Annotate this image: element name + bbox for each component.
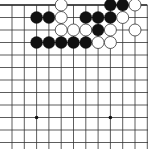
black-stone	[55, 37, 67, 49]
white-stone	[104, 37, 116, 49]
white-stone	[129, 0, 141, 11]
black-stone	[92, 24, 104, 36]
star-point	[109, 116, 113, 120]
go-board[interactable]	[0, 0, 148, 149]
black-stone	[80, 37, 92, 49]
black-stone	[43, 37, 55, 49]
black-stone	[92, 12, 104, 24]
black-stone	[104, 0, 116, 11]
white-stone	[129, 24, 141, 36]
white-stone	[117, 12, 129, 24]
black-stone	[31, 12, 43, 24]
black-stone	[31, 37, 43, 49]
black-stone	[117, 0, 129, 11]
black-stone	[43, 12, 55, 24]
white-stone	[104, 24, 116, 36]
white-stone	[55, 12, 67, 24]
white-stone	[92, 37, 104, 49]
white-stone	[55, 0, 67, 11]
star-point	[35, 116, 39, 120]
black-stone	[80, 12, 92, 24]
white-stone	[68, 24, 80, 36]
black-stone	[104, 12, 116, 24]
white-stone	[55, 24, 67, 36]
black-stone	[68, 37, 80, 49]
white-stone	[80, 24, 92, 36]
